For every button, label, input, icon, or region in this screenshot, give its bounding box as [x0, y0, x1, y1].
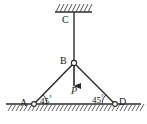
angle-right-value: 45 [92, 95, 101, 105]
ceiling-support [55, 4, 92, 12]
node-label-C: C [62, 15, 69, 25]
statics-diagram-figure: C B P A D 45° 45° [0, 0, 147, 124]
angle-right-degree-symbol: ° [101, 93, 104, 101]
angle-label-left: 45° [40, 97, 52, 106]
angle-left-degree-symbol: ° [49, 94, 52, 102]
joint-A [32, 102, 37, 107]
node-label-D: D [119, 97, 126, 107]
ceiling-hatching [56, 4, 92, 12]
force-label-P: P [71, 86, 77, 96]
joint-B [71, 60, 76, 65]
joint-D [113, 102, 118, 107]
node-label-A: A [20, 98, 27, 108]
angle-label-right: 45° [92, 96, 104, 105]
angle-left-value: 45 [40, 96, 49, 106]
node-label-B: B [60, 56, 67, 66]
